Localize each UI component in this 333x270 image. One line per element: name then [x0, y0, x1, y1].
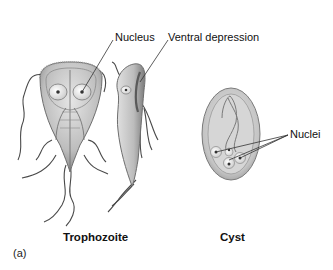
ventral-depression-label: Ventral depression	[168, 32, 259, 43]
nuclei-label: Nuclei	[290, 129, 321, 140]
side-nucleolus	[125, 89, 128, 92]
cyst-nucleolus-2	[228, 163, 231, 166]
trophozoite-front-view	[18, 62, 108, 226]
trophozoite-caption: Trophozoite	[63, 232, 128, 244]
cyst-caption: Cyst	[220, 232, 245, 244]
nucleolus-left	[56, 90, 60, 94]
side-body	[117, 64, 145, 186]
nucleus-label: Nucleus	[115, 32, 155, 43]
cyst	[202, 88, 260, 180]
leader-lines	[82, 40, 288, 160]
trophozoite-body	[40, 62, 102, 172]
ventral-depression-leader	[140, 40, 168, 82]
giardia-illustration	[0, 0, 333, 270]
panel-label: (a)	[13, 248, 26, 259]
trophozoite-side-view	[108, 62, 158, 212]
